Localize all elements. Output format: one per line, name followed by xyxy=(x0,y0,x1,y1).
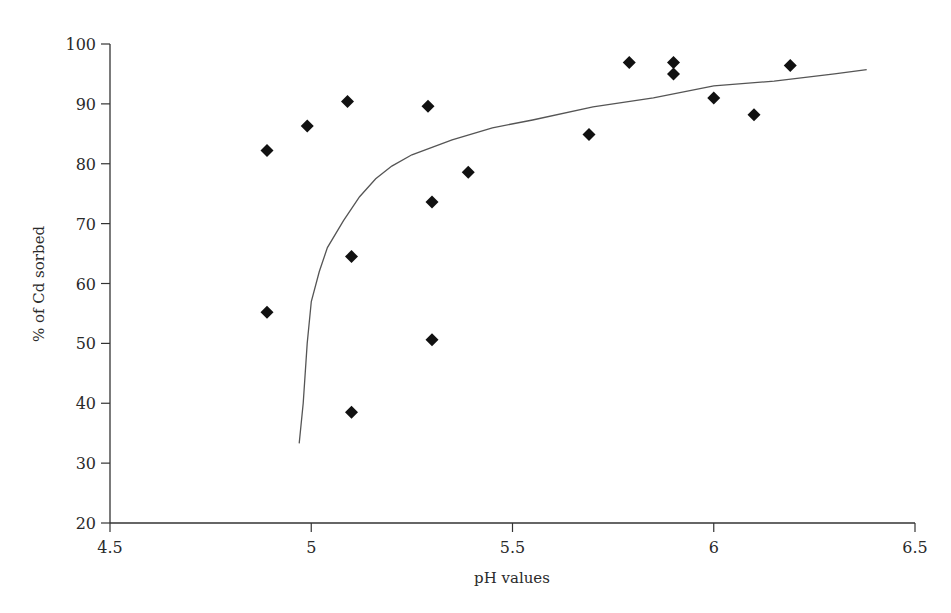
y-tick-label: 30 xyxy=(76,454,96,473)
data-point-diamond xyxy=(421,100,434,113)
data-point-diamond xyxy=(260,306,273,319)
x-tick-label: 6 xyxy=(709,538,719,557)
x-tick-label: 4.5 xyxy=(97,538,122,557)
data-point-diamond xyxy=(748,108,761,121)
y-axis-ticks: 2030405060708090100 xyxy=(65,35,110,533)
data-point-diamond xyxy=(426,196,439,209)
y-tick-label: 100 xyxy=(65,35,96,54)
data-point-diamond xyxy=(260,144,273,157)
y-tick-label: 80 xyxy=(76,155,96,174)
y-axis-title: % of Cd sorbed xyxy=(30,226,48,343)
data-point-diamond xyxy=(301,120,314,133)
data-points xyxy=(260,56,796,419)
x-tick-label: 6.5 xyxy=(902,538,927,557)
y-tick-label: 60 xyxy=(76,275,96,294)
data-point-diamond xyxy=(582,128,595,141)
data-point-diamond xyxy=(462,166,475,179)
x-axis-title: pH values xyxy=(474,569,550,587)
data-point-diamond xyxy=(341,95,354,108)
data-point-diamond xyxy=(345,250,358,263)
x-tick-label: 5.5 xyxy=(500,538,525,557)
y-tick-label: 70 xyxy=(76,215,96,234)
x-axis-ticks: 4.555.566.5 xyxy=(97,523,927,557)
data-point-diamond xyxy=(623,56,636,69)
y-tick-label: 50 xyxy=(76,334,96,353)
y-tick-label: 40 xyxy=(76,394,96,413)
data-point-diamond xyxy=(667,56,680,69)
data-point-diamond xyxy=(667,67,680,80)
data-point-diamond xyxy=(426,333,439,346)
axes xyxy=(110,44,915,523)
x-tick-label: 5 xyxy=(306,538,316,557)
scatter-chart: 2030405060708090100 4.555.566.5 pH value… xyxy=(0,0,951,613)
fitted-curve xyxy=(299,70,867,444)
y-tick-label: 20 xyxy=(76,514,96,533)
data-point-diamond xyxy=(345,406,358,419)
data-point-diamond xyxy=(707,91,720,104)
data-point-diamond xyxy=(784,59,797,72)
y-tick-label: 90 xyxy=(76,95,96,114)
